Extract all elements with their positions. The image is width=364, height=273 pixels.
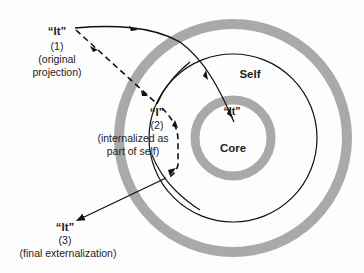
- arrow-head-icon: [172, 120, 178, 128]
- it1-number: (1): [51, 40, 64, 52]
- inner-path-arc: [152, 155, 200, 210]
- it3-number: (3): [59, 234, 72, 246]
- i2-number: (2): [151, 119, 164, 131]
- i2-name: “I”: [150, 106, 165, 118]
- it1-desc-line1: (original: [38, 53, 75, 65]
- it1-desc-line2: projection): [32, 66, 81, 78]
- arrow-head-icon: [141, 90, 148, 96]
- it1-name: “It”: [48, 25, 67, 37]
- return-arc: [157, 62, 190, 104]
- i2-desc-line1: (internalized as: [97, 132, 168, 144]
- self-circle: [149, 54, 317, 222]
- core-label: Core: [220, 142, 246, 154]
- self-concentric-diagram: Self Core “It” “It” (1) (original projec…: [0, 0, 364, 273]
- core-it-label: “It”: [224, 105, 241, 117]
- it3-name: “It”: [56, 221, 75, 233]
- it3-desc: (final externalization): [20, 247, 117, 259]
- i2-desc-line2: part of self): [107, 145, 160, 157]
- self-label: Self: [239, 68, 260, 80]
